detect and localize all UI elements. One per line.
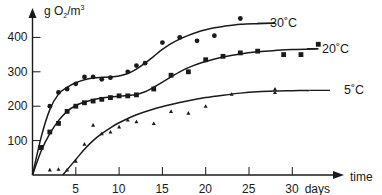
square-marker-icon: [203, 57, 208, 62]
square-marker-icon: [316, 42, 321, 47]
square-marker-icon: [299, 52, 304, 57]
circle-marker-icon: [82, 75, 87, 80]
circle-marker-icon: [65, 87, 70, 92]
square-marker-icon: [47, 130, 52, 135]
square-marker-icon: [221, 54, 226, 59]
triangle-marker-icon: [186, 111, 190, 115]
circle-marker-icon: [47, 104, 52, 109]
square-marker-icon: [108, 95, 113, 100]
triangle-marker-icon: [56, 167, 60, 171]
triangle-marker-icon: [204, 104, 208, 108]
x-axis-arrow-icon: [333, 171, 344, 179]
square-marker-icon: [134, 92, 139, 97]
circle-marker-icon: [99, 77, 104, 82]
square-marker-icon: [65, 109, 70, 114]
square-marker-icon: [169, 73, 174, 78]
circle-marker-icon: [160, 40, 165, 45]
square-marker-icon: [39, 145, 44, 150]
circle-marker-icon: [108, 75, 113, 80]
square-marker-icon: [82, 100, 87, 105]
triangle-marker-icon: [273, 87, 277, 91]
y-tick-label: 200: [7, 99, 27, 113]
triangle-marker-icon: [48, 168, 52, 172]
y-tick-label: 400: [7, 30, 27, 44]
x-tick-label: 10: [112, 182, 126, 195]
triangle-marker-icon: [117, 125, 121, 129]
circle-marker-icon: [73, 81, 78, 86]
series-label-30c: 30˚C: [270, 16, 297, 30]
y-axis-title: g O2/m3: [44, 4, 85, 19]
x-tick-label: 15: [155, 182, 169, 195]
x-tick-label: 5: [72, 182, 79, 195]
square-marker-icon: [117, 93, 122, 98]
triangle-marker-icon: [169, 109, 173, 113]
circle-marker-icon: [143, 61, 148, 66]
y-tick-label: 100: [7, 134, 27, 148]
circle-marker-icon: [134, 63, 139, 68]
square-marker-icon: [255, 49, 260, 54]
triangle-marker-icon: [82, 142, 86, 146]
x-tick-label: 30days: [285, 182, 330, 195]
curve-5c: [63, 90, 310, 175]
x-tick-label: 20: [199, 182, 213, 195]
triangle-marker-icon: [91, 123, 95, 127]
oxygen-consumption-chart: 10020030040051015202530days 30˚C20˚C5˚C …: [0, 0, 382, 195]
square-marker-icon: [238, 50, 243, 55]
curve-30c: [33, 23, 275, 175]
circle-marker-icon: [238, 16, 243, 21]
x-tick-label: 25: [242, 182, 256, 195]
square-marker-icon: [281, 52, 286, 57]
square-marker-icon: [56, 121, 61, 126]
circle-marker-icon: [195, 38, 200, 43]
square-marker-icon: [99, 97, 104, 102]
data-points: [39, 16, 321, 171]
series-label-20c: 20˚C: [322, 42, 349, 56]
y-tick-label: 300: [7, 65, 27, 79]
fit-curves: [33, 23, 331, 175]
circle-marker-icon: [177, 35, 182, 40]
circle-marker-icon: [212, 33, 217, 38]
series-label-5c: 5˚C: [344, 83, 364, 97]
triangle-marker-icon: [134, 120, 138, 124]
square-marker-icon: [73, 104, 78, 109]
circle-marker-icon: [91, 75, 96, 80]
square-marker-icon: [125, 93, 130, 98]
triangle-marker-icon: [152, 121, 156, 125]
circle-marker-icon: [125, 69, 130, 74]
triangle-marker-icon: [108, 130, 112, 134]
square-marker-icon: [91, 99, 96, 104]
y-axis-arrow-icon: [29, 8, 37, 18]
x-axis-title: time: [350, 170, 373, 184]
circle-marker-icon: [56, 90, 61, 95]
curve-20c: [33, 49, 319, 175]
square-marker-icon: [151, 87, 156, 92]
square-marker-icon: [186, 69, 191, 74]
axes: 10020030040051015202530days: [7, 8, 344, 195]
